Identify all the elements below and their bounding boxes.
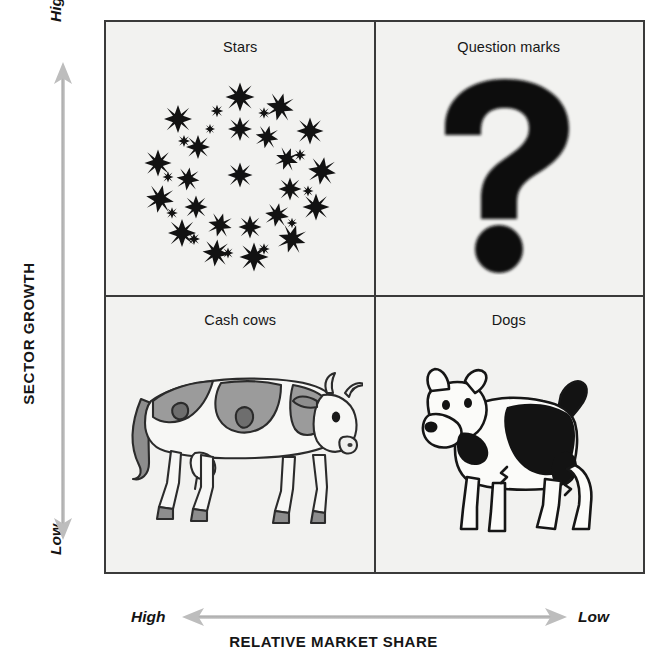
quadrant-cash-cows-label: Cash cows [204,312,276,328]
quadrant-dogs-art [375,328,644,572]
stars-ring-icon [132,67,348,283]
x-axis-title: RELATIVE MARKET SHARE [0,633,667,650]
quadrant-cash-cows-art [106,328,375,572]
quadrant-stars-label: Stars [223,39,257,55]
quadrant-dogs-label: Dogs [492,312,526,328]
quadrant-stars[interactable]: Stars [106,22,375,295]
quadrant-question-marks-art [375,55,644,295]
x-axis-arrow-icon [182,607,567,627]
question-mark-icon [429,75,589,275]
y-axis-title-label: SECTOR GROWTH [20,262,37,405]
quadrant-dogs[interactable]: Dogs [375,295,644,572]
x-axis-low-label: Low [578,608,609,626]
dog-icon [411,357,607,543]
quadrant-question-marks-label: Question marks [457,39,560,55]
x-axis-high-label: High [131,608,165,626]
bcg-matrix: Stars [104,20,645,574]
y-axis-high-label: High [47,0,65,22]
cow-icon [117,361,363,539]
quadrant-stars-art [106,55,375,295]
quadrant-question-marks[interactable]: Question marks [375,22,644,295]
quadrant-cash-cows[interactable]: Cash cows [106,295,375,572]
y-axis-title: SECTOR GROWTH [0,0,56,667]
y-axis-arrow-icon [52,62,74,540]
